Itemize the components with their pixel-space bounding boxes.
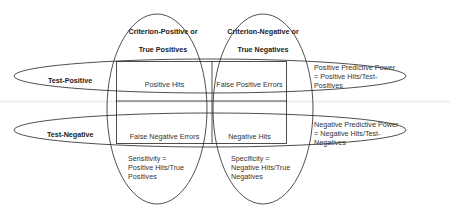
sensitivity-line3: Positives [128,172,184,181]
sensitivity-line1: Sensitivity = [128,154,184,163]
specificity-line1: Specificity = [231,154,290,163]
criterion-negative-subheader: True Negatives [217,45,309,54]
criterion-positive-line1: Criterion-Positive or [118,27,208,36]
cell-negative-hits: Negative Hits [212,132,287,141]
specificity-line3: Negatives [231,172,290,181]
cell-false-positive-errors: False Positive Errors [212,80,287,89]
criterion-positive-subheader: True Positives [118,45,208,54]
criterion-positive-header: Criterion-Positive or [118,27,208,36]
specificity-line2: Negative Hits/True [231,163,290,172]
negative-predictive-power-text: Negative Predictive Power = Negative Hit… [314,120,398,147]
test-negative-label: Test-Negative [47,130,94,139]
npp-line2: = Negative Hits/Test- [314,129,398,138]
specificity-text: Specificity = Negative Hits/True Negativ… [231,154,290,181]
sensitivity-line2: Positive Hits/True [128,163,184,172]
test-positive-label: Test-Positive [48,76,92,85]
criterion-negative-line1: Criterion-Negative or [217,27,309,36]
npp-line1: Negative Predictive Power [314,120,398,129]
criterion-negative-header: Criterion-Negative or [217,27,309,36]
positive-predictive-power-text: Positive Predictive Power = Positive Hit… [314,63,395,90]
sensitivity-text: Sensitivity = Positive Hits/True Positiv… [128,154,184,181]
npp-line3: Negatives [314,138,398,147]
ppp-line3: Positives [314,81,395,90]
criterion-positive-line2: True Positives [118,45,208,54]
ppp-line2: = Positive Hits/Test- [314,72,395,81]
cell-positive-hits: Positive Hits [117,80,212,89]
criterion-negative-line2: True Negatives [217,45,309,54]
ppp-line1: Positive Predictive Power [314,63,395,72]
cell-false-negative-errors: False Negative Errors [117,132,212,141]
